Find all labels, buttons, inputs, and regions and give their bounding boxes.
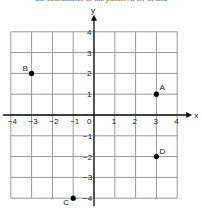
y-tick-label: 4 (87, 28, 92, 37)
y-tick-label: 1 (87, 90, 92, 99)
x-tick-label: −2 (49, 117, 59, 126)
y-axis-label: y (91, 6, 95, 15)
point-c (71, 196, 76, 201)
x-tick-label: 3 (153, 117, 158, 126)
x-tick-label: 2 (133, 117, 138, 126)
x-tick-label: −3 (29, 117, 39, 126)
point-label-a: A (159, 83, 165, 92)
coordinate-plane: xy−4−3−2−101234−4−3−2−11234ABCD (0, 0, 202, 213)
y-tick-label: −1 (83, 132, 93, 141)
point-label-c: C (63, 198, 69, 207)
y-tick-label: −4 (83, 194, 93, 203)
y-tick-label: −2 (83, 153, 93, 162)
point-b (29, 71, 34, 76)
y-axis-arrow-icon (91, 15, 97, 21)
x-tick-label: 4 (174, 117, 179, 126)
point-a (154, 92, 159, 97)
y-tick-label: −3 (83, 173, 93, 182)
y-tick-label: 3 (87, 49, 92, 58)
x-axis-arrow-icon (186, 112, 192, 118)
point-label-b: B (23, 64, 28, 73)
point-label-d: D (159, 147, 165, 156)
y-tick-label: 2 (87, 69, 92, 78)
x-tick-label: −4 (8, 117, 18, 126)
x-tick-label: −1 (70, 117, 80, 126)
x-tick-label: 1 (112, 117, 117, 126)
point-d (154, 154, 159, 159)
x-axis-label: x (194, 111, 198, 120)
x-tick-label: 0 (87, 117, 92, 126)
